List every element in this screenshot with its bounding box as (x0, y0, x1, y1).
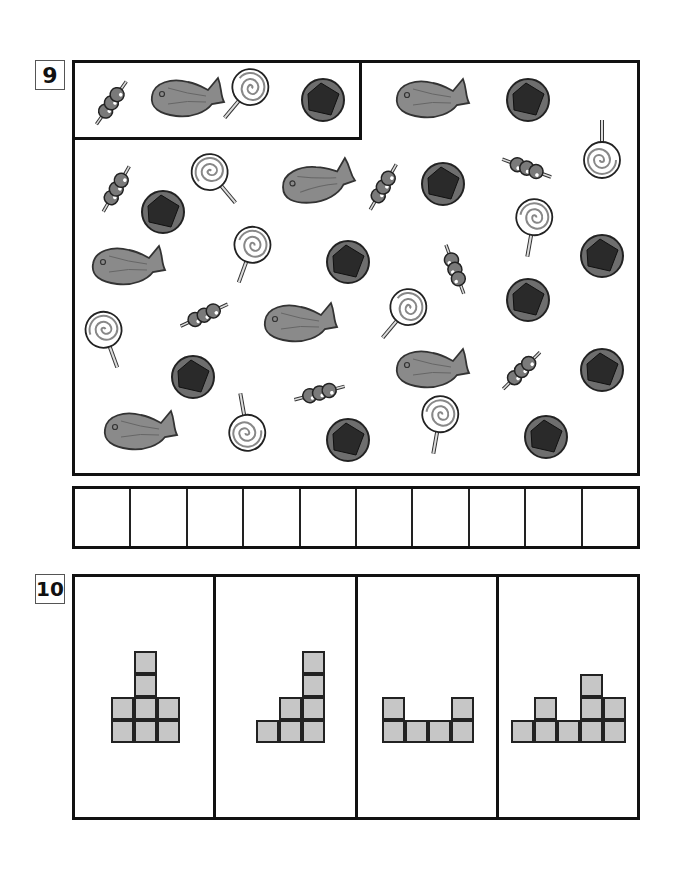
answer-cell[interactable] (583, 489, 637, 546)
block-cube (580, 720, 603, 743)
answer-cell[interactable] (188, 489, 244, 546)
ohagi-icon (579, 233, 625, 283)
ohagi-icon (579, 347, 625, 397)
block-panel-d[interactable] (499, 577, 637, 817)
block-cube (111, 720, 134, 743)
block-cube (134, 651, 157, 674)
ohagi-icon (140, 189, 186, 239)
block-cube (557, 720, 580, 743)
block-panel-a[interactable] (75, 577, 216, 817)
taiyaki-icon (89, 242, 167, 292)
ohagi-icon (523, 414, 569, 464)
block-cube (134, 720, 157, 743)
block-cube (580, 674, 603, 697)
question-9-number: 9 (35, 60, 65, 90)
block-cube (534, 697, 557, 720)
taiyaki-icon (261, 299, 339, 349)
ohagi-icon (170, 354, 216, 404)
answer-cell[interactable] (131, 489, 187, 546)
block-cube (111, 697, 134, 720)
block-cube (279, 697, 302, 720)
block-panel-b[interactable] (216, 577, 357, 817)
answer-cell[interactable] (75, 489, 131, 546)
answer-row (72, 486, 640, 549)
block-cube (603, 697, 626, 720)
block-cube (405, 720, 428, 743)
taiyaki-icon (393, 75, 471, 125)
block-cube (302, 697, 325, 720)
block-cube (256, 720, 279, 743)
ohagi-icon (420, 161, 466, 211)
block-cube (382, 720, 405, 743)
block-cube (302, 651, 325, 674)
taiyaki-icon (101, 407, 179, 457)
answer-cell[interactable] (413, 489, 469, 546)
block-cube (511, 720, 534, 743)
question-10-panels (72, 574, 640, 820)
ohagi-icon (505, 77, 551, 127)
block-cube (580, 697, 603, 720)
block-cube (382, 697, 405, 720)
block-cube (134, 674, 157, 697)
taiyaki-icon (393, 345, 471, 395)
block-cube (157, 697, 180, 720)
answer-cell[interactable] (526, 489, 582, 546)
ohagi-icon (300, 77, 346, 127)
answer-cell[interactable] (301, 489, 357, 546)
block-cube (157, 720, 180, 743)
answer-cell[interactable] (244, 489, 300, 546)
question-10-number: 10 (35, 574, 65, 604)
ohagi-icon (325, 239, 371, 289)
block-cube (534, 720, 557, 743)
block-cube (134, 697, 157, 720)
ohagi-icon (325, 417, 371, 467)
block-cube (279, 720, 302, 743)
answer-cell[interactable] (357, 489, 413, 546)
block-cube (451, 720, 474, 743)
block-cube (451, 697, 474, 720)
ohagi-icon (505, 277, 551, 327)
answer-cell[interactable] (470, 489, 526, 546)
block-cube (302, 674, 325, 697)
block-cube (428, 720, 451, 743)
block-cube (302, 720, 325, 743)
block-cube (603, 720, 626, 743)
lollipop-icon (582, 114, 622, 180)
block-panel-c[interactable] (358, 577, 499, 817)
